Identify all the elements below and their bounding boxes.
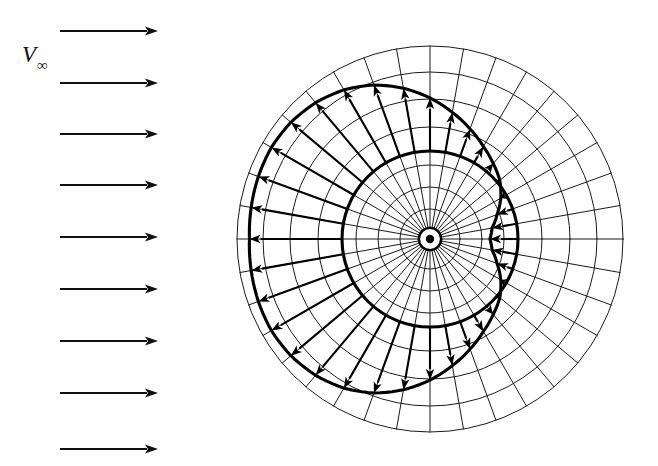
- velocity-vector-head-120: [474, 147, 483, 159]
- velocity-vector-shaft-250: [460, 322, 466, 339]
- velocity-vector-shaft-10: [262, 209, 343, 223]
- freestream-label-subscript: ∞: [37, 57, 48, 73]
- velocity-vector-shaft-260: [445, 326, 450, 355]
- velocity-vector-shaft-40: [299, 129, 362, 182]
- grid-spoke-22: [439, 247, 578, 363]
- velocity-vector-shaft-170: [503, 224, 517, 226]
- grid-spoke-17: [442, 205, 620, 236]
- grid-spoke-15: [440, 143, 597, 234]
- freestream-arrow-group: [60, 26, 158, 453]
- velocity-vector-shaft-280: [405, 326, 414, 379]
- velocity-vector-shaft-80: [405, 99, 414, 152]
- velocity-vector-head-240: [474, 320, 483, 332]
- velocity-vector-shaft-60: [349, 99, 386, 162]
- velocity-vector-shaft-100: [445, 123, 450, 152]
- velocity-vector-head-30: [271, 147, 283, 156]
- figure-canvas: V ∞: [0, 0, 658, 466]
- velocity-vector-shaft-130: [487, 171, 488, 172]
- grid-spoke-14: [439, 115, 578, 231]
- center-dot: [426, 235, 434, 243]
- grid-center-marker: [419, 228, 441, 250]
- freestream-label-group: V ∞: [22, 42, 48, 73]
- velocity-vector-shaft-290: [378, 322, 400, 383]
- velocity-vector-head-330: [271, 321, 283, 330]
- velocity-vector-shaft-70: [378, 95, 400, 156]
- grid-spoke-23: [438, 248, 554, 387]
- figure-root: V ∞: [0, 0, 658, 466]
- velocity-vector-shaft-320: [299, 296, 362, 349]
- velocity-vector-shaft-300: [349, 315, 386, 378]
- velocity-vector-shaft-120: [474, 156, 478, 163]
- velocity-vector-shaft-350: [262, 254, 343, 268]
- velocity-vector-shaft-230: [487, 306, 488, 307]
- grid-spoke-21: [440, 245, 597, 336]
- grid-spoke-19: [442, 241, 620, 272]
- velocity-vector-shaft-240: [474, 315, 478, 322]
- velocity-vector-shaft-110: [460, 139, 466, 156]
- grid-spoke-13: [438, 91, 554, 230]
- velocity-vector-shaft-190: [503, 252, 517, 254]
